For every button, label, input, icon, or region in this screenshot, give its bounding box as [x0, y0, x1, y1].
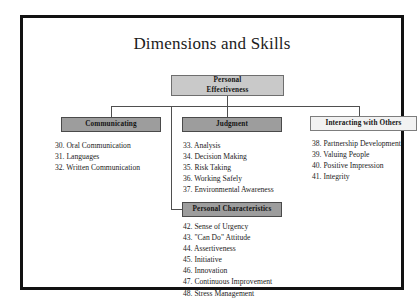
list-item: 40. Positive Impression [312, 160, 401, 171]
diagram-frame: Dimensions and Skills Personal Effective… [20, 15, 404, 290]
node-root-line2: Effectiveness [207, 86, 249, 94]
connector-horizontal-bus [111, 106, 360, 107]
connector-drop-communicating [111, 106, 112, 117]
node-communicating: Communicating [61, 117, 161, 132]
list-item: 33. Analysis [183, 140, 274, 151]
list-item: 44. Assertiveness [183, 243, 272, 254]
list-item: 35. Risk Taking [183, 162, 274, 173]
list-item: 39. Valuing People [312, 149, 401, 160]
list-communicating-items: 30. Oral Communication31. Languages32. W… [55, 140, 140, 173]
list-item: 36. Working Safely [183, 173, 274, 184]
list-judgment-items: 33. Analysis34. Decision Making35. Risk … [183, 140, 274, 195]
connector-drop-interacting [359, 106, 360, 116]
list-item: 43. "Can Do" Attitude [183, 232, 272, 243]
list-personal-characteristics: 42. Sense of Urgency43. "Can Do" Attitud… [183, 221, 272, 299]
list-item: 45. Initiative [183, 254, 272, 265]
list-interacting: 38. Partnership Development39. Valuing P… [312, 138, 401, 182]
list-item: 47. Continuous Improvement [183, 276, 272, 287]
connector-drop-judgment [227, 106, 228, 117]
connector-spine-characteristics [171, 106, 172, 210]
list-item: 41. Integrity [312, 171, 401, 182]
list-item: 37. Environmental Awareness [183, 184, 274, 195]
list-item: 31. Languages [55, 151, 140, 162]
list-item: 34. Decision Making [183, 151, 274, 162]
node-personal-characteristics: Personal Characteristics [182, 202, 282, 217]
node-judgment: Judgment [182, 117, 282, 132]
list-item: 48. Stress Management [183, 288, 272, 299]
node-root-line1: Personal [214, 76, 242, 84]
figure-title: Dimensions and Skills [23, 34, 401, 54]
list-interacting-items: 38. Partnership Development39. Valuing P… [312, 138, 401, 182]
node-personal-effectiveness: Personal Effectiveness [171, 75, 284, 96]
node-interacting-with-others: Interacting with Others [310, 116, 417, 131]
list-judgment: 33. Analysis34. Decision Making35. Risk … [183, 140, 274, 195]
list-item: 30. Oral Communication [55, 140, 140, 151]
list-item: 42. Sense of Urgency [183, 221, 272, 232]
list-personal-characteristics-items: 42. Sense of Urgency43. "Can Do" Attitud… [183, 221, 272, 299]
list-item: 32. Written Communication [55, 162, 140, 173]
list-communicating: 30. Oral Communication31. Languages32. W… [55, 140, 140, 173]
list-item: 46. Innovation [183, 265, 272, 276]
list-item: 38. Partnership Development [312, 138, 401, 149]
